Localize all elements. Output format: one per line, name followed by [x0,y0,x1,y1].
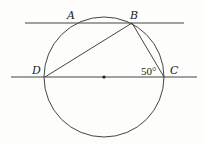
label-D: D [31,64,41,77]
diagram-svg: A B D C 50° [0,0,203,144]
segment-DB [45,23,132,77]
geometry-diagram: A B D C 50° [0,0,203,144]
center-point [102,75,105,78]
angle-label-C: 50° [141,65,156,77]
label-A: A [66,9,75,22]
label-C: C [170,64,179,77]
label-B: B [129,9,138,22]
